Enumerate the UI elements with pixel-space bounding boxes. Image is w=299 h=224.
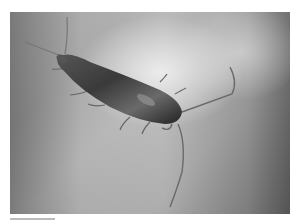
antenna xyxy=(25,17,67,56)
insect-body xyxy=(57,54,182,124)
silverfish-photo xyxy=(10,12,290,214)
tail-filaments xyxy=(162,67,235,207)
caption-underline xyxy=(10,218,55,220)
silverfish-illustration xyxy=(10,12,290,214)
